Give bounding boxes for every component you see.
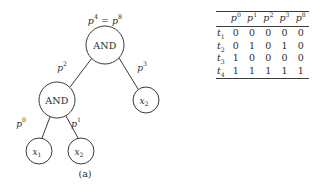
table-row: t4 1 1 1 1 1 (216, 65, 309, 78)
column-header-p3: p3 (276, 12, 292, 26)
node-leaf-x2-right-sub: 2 (145, 99, 149, 106)
edge-label-p0-sup: 0 (22, 116, 26, 123)
cell-t4-p0: 1 (228, 65, 244, 78)
truth-table-header-row: p0 p1 p2 p3 p8 (216, 12, 309, 26)
panel-a-tree: p4 = p8 AND AND x1 x2 x2 (0, 0, 170, 194)
root-label-relation: = (101, 15, 109, 26)
root-label-sup-right: 8 (118, 13, 122, 21)
cell-t2-p2: 0 (260, 39, 276, 52)
edge-inner-to-x1 (42, 117, 50, 138)
rule-bottom (216, 78, 309, 79)
column-header-p3-sup: 3 (286, 11, 290, 18)
edge-root-to-inner (70, 58, 92, 87)
column-header-p0: p0 (228, 12, 244, 26)
edge-label-p3: p3 (137, 60, 147, 73)
row-label-t2: t2 (216, 39, 228, 52)
caption-panel-a: (a) (0, 168, 170, 179)
cell-t2-p8: 0 (293, 39, 309, 52)
cell-t2-p1: 1 (244, 39, 260, 52)
edge-label-p2-sup: 2 (63, 60, 67, 67)
column-header-p2: p2 (260, 12, 276, 26)
cell-t3-p3: 0 (276, 52, 292, 65)
cell-t3-p8: 0 (293, 52, 309, 65)
table-row: t3 1 0 0 0 0 (216, 52, 309, 65)
node-leaf-x1-sub: 1 (38, 150, 42, 157)
row-label-t3: t3 (216, 52, 228, 65)
edge-label-p3-sup: 3 (143, 60, 147, 67)
row-label-t4: t4 (216, 65, 228, 78)
figure-root: p4 = p8 AND AND x1 x2 x2 (0, 0, 331, 194)
node-root-and-label: AND (92, 40, 117, 51)
node-leaf-x2-left-sub: 2 (80, 150, 84, 157)
cell-t1-p0: 0 (228, 27, 244, 40)
row-label-t1-sub: 1 (221, 33, 225, 40)
cell-t1-p3: 0 (276, 27, 292, 40)
cell-t3-p1: 0 (244, 52, 260, 65)
edge-label-p2: p2 (57, 60, 67, 73)
column-header-p1: p1 (244, 12, 260, 26)
edge-label-p0: p0 (16, 116, 26, 129)
root-gate-label: p4 = p8 (88, 13, 122, 26)
table-row: t2 0 1 0 1 0 (216, 39, 309, 52)
row-label-t4-sub: 4 (221, 71, 225, 78)
cell-t1-p8: 0 (293, 27, 309, 40)
truth-table: p0 p1 p2 p3 p8 (216, 11, 309, 79)
edge-label-p1: p1 (71, 116, 81, 129)
column-header-p2-sup: 2 (269, 11, 273, 18)
tree-diagram: p4 = p8 AND AND x1 x2 x2 (0, 0, 170, 170)
column-header-p8: p8 (293, 12, 309, 26)
cell-t4-p1: 1 (244, 65, 260, 78)
rule-row-bottom (216, 78, 309, 79)
panel-b-table: p0 p1 p2 p3 p8 (170, 0, 331, 194)
edge-label-p1-sup: 1 (77, 116, 81, 123)
node-inner-and-label: AND (44, 95, 69, 106)
cell-t3-p2: 0 (260, 52, 276, 65)
cell-t3-p0: 1 (228, 52, 244, 65)
truth-table-body: t1 0 0 0 0 0 t2 0 1 0 (216, 27, 309, 79)
column-header-p1-sup: 1 (253, 11, 257, 18)
cell-t4-p2: 1 (260, 65, 276, 78)
cell-t1-p1: 0 (244, 27, 260, 40)
truth-table-head: p0 p1 p2 p3 p8 (216, 11, 309, 27)
header-corner (216, 12, 228, 26)
cell-t2-p0: 0 (228, 39, 244, 52)
cell-t1-p2: 0 (260, 27, 276, 40)
table-row: t1 0 0 0 0 0 (216, 27, 309, 40)
truth-table-wrapper: p0 p1 p2 p3 p8 (216, 11, 309, 79)
edge-root-to-x2-right (119, 58, 138, 89)
cell-t4-p8: 1 (293, 65, 309, 78)
cell-t2-p3: 1 (276, 39, 292, 52)
row-label-t1: t1 (216, 27, 228, 40)
column-header-p0-sup: 0 (237, 11, 241, 18)
cell-t4-p3: 1 (276, 65, 292, 78)
column-header-p8-sup: 8 (302, 11, 306, 18)
